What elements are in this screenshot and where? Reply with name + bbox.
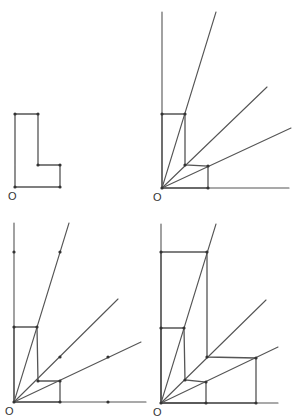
vertex-point (159, 326, 162, 329)
panel-2 (160, 12, 291, 190)
vertex-point (159, 401, 162, 404)
origin-label-panel-2: O (153, 191, 162, 203)
vertex-point (58, 379, 61, 382)
vertex-point (36, 379, 39, 382)
ray-shallow (14, 342, 141, 402)
vertex-point (13, 112, 16, 115)
dilation-diagram (0, 0, 292, 419)
origin-label-panel-4: O (153, 406, 162, 418)
vertex-point (205, 250, 208, 253)
vertex-point (58, 355, 61, 358)
panel-1 (13, 112, 61, 188)
vertex-point (204, 401, 207, 404)
vertex-point (36, 112, 39, 115)
vertex-point (204, 380, 207, 383)
vertex-point (35, 325, 38, 328)
ray-shallow (161, 347, 278, 403)
vertex-point (12, 250, 15, 253)
original-l-shape (15, 114, 60, 187)
vertex-point (183, 378, 186, 381)
vertex-point (206, 186, 209, 189)
ray-shallow (162, 128, 291, 188)
vertex-point (12, 325, 15, 328)
vertex-point (254, 401, 257, 404)
vertex-point (183, 112, 186, 115)
origin-label-panel-3: O (5, 405, 14, 417)
vertex-point (159, 250, 162, 253)
vertex-point (106, 400, 109, 403)
vertex-point (58, 163, 61, 166)
origin-label-panel-1: O (8, 190, 17, 202)
vertex-point (58, 400, 61, 403)
panel-3 (12, 223, 146, 404)
vertex-point (183, 163, 186, 166)
vertex-point (254, 356, 257, 359)
vertex-point (160, 186, 163, 189)
vertex-point (106, 355, 109, 358)
vertex-point (13, 185, 16, 188)
panel-4 (159, 224, 278, 405)
vertex-point (12, 400, 15, 403)
vertex-point (182, 326, 185, 329)
vertex-point (206, 164, 209, 167)
vertex-point (58, 185, 61, 188)
vertex-point (160, 112, 163, 115)
vertex-point (36, 163, 39, 166)
vertex-point (205, 355, 208, 358)
vertex-point (58, 250, 61, 253)
